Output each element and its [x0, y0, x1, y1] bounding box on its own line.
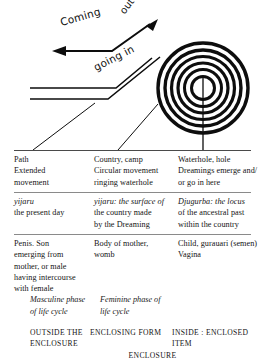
text-line: within the country: [178, 219, 261, 230]
cell-outside-bodily: Penis. Son emerging from mother, or male…: [0, 238, 94, 317]
text-line-italic: yijaru: [14, 196, 90, 207]
caption-inside: INSIDE : ENCLOSED ITEM: [172, 327, 262, 349]
arrow-head-upright-icon: [146, 19, 158, 31]
text-line: of the ancestral past: [178, 207, 261, 218]
text-line: ENCLOSURE: [30, 338, 86, 349]
table-row-meaning: Path Extended movement Country, camp Cir…: [0, 151, 265, 192]
text-line-phase: life cycle: [94, 306, 174, 317]
comparative-table: Path Extended movement Country, camp Cir…: [0, 150, 265, 361]
text-line: ENCLOSING FORM: [90, 327, 168, 338]
cell-inside-term: Djugurba: the locus of the ancestral pas…: [178, 196, 265, 230]
arrow-head-left-icon: [52, 46, 66, 56]
page-text-cutoff: [0, 317, 265, 320]
text-line: Vagina: [178, 249, 261, 260]
path-arrow-icon-out: [60, 24, 150, 51]
diagram-figure: Coming out going in: [0, 0, 265, 152]
text-line-italic: yijaru: the surface of: [94, 196, 174, 207]
cell-inside-meaning: Waterhole, hole Dreamings emerge and/ or…: [178, 154, 265, 188]
leader-line-enclosing: [118, 104, 158, 150]
text-line-italic: Djugurba: the locus: [178, 196, 261, 207]
cell-outside-meaning: Path Extended movement: [0, 154, 94, 188]
text-line: Circular movement: [94, 165, 174, 176]
text-line-phase: Feminine phase of: [94, 294, 174, 305]
leader-line-outside: [33, 103, 95, 150]
text-line: the present day: [14, 207, 90, 218]
cell-enclosing-term: yijaru: the surface of the country made …: [94, 196, 178, 230]
text-line: ITEM: [172, 338, 258, 349]
text-line: OUTSIDE THE: [30, 327, 86, 338]
text-line: Dreamings emerge and/: [178, 165, 261, 176]
text-line: Extended: [14, 165, 90, 176]
text-line: womb: [94, 249, 174, 260]
text-line: Country, camp: [94, 154, 174, 165]
spacer-line: [94, 272, 174, 283]
text-line: movement: [14, 177, 90, 188]
text-line-phase: of life cycle: [14, 306, 90, 317]
text-line: by the Dreaming: [94, 219, 174, 230]
table-caption-row: OUTSIDE THE ENCLOSURE ENCLOSING FORM INS…: [0, 321, 265, 349]
text-line: with female: [14, 283, 90, 294]
caption-enclosure-word: ENCLOSURE: [0, 349, 265, 361]
spacer-line: [94, 261, 174, 272]
text-line: ringing waterhole: [94, 177, 174, 188]
cell-inside-bodily: Child, gurauari (semen) Vagina: [178, 238, 265, 317]
text-line: or go in here: [178, 177, 261, 188]
text-line: Child, gurauari (semen): [178, 238, 261, 249]
text-line: mother, or male: [14, 261, 90, 272]
text-line: emerging from: [14, 249, 90, 260]
text-line: Waterhole, hole: [178, 154, 261, 165]
cell-enclosing-bodily: Body of mother, womb Feminine phase of l…: [94, 238, 178, 317]
caption-enclosing: ENCLOSING FORM: [90, 327, 172, 349]
table-row-bodily: Penis. Son emerging from mother, or male…: [0, 235, 265, 321]
text-line: having intercourse: [14, 272, 90, 283]
caption-outside: OUTSIDE THE ENCLOSURE: [0, 327, 90, 349]
text-line: the country made: [94, 207, 174, 218]
text-line: Penis. Son: [14, 238, 90, 249]
text-line: Path: [14, 154, 90, 165]
diagram-svg: [0, 0, 265, 152]
text-line: INSIDE : ENCLOSED: [172, 327, 258, 338]
cell-outside-term: yijaru the present day: [0, 196, 94, 230]
cell-enclosing-meaning: Country, camp Circular movement ringing …: [94, 154, 178, 188]
spacer-line: [94, 283, 174, 294]
text-line-phase: Masculine phase: [14, 294, 90, 305]
text-line: Body of mother,: [94, 238, 174, 249]
table-row-term: yijaru the present day yijaru: the surfa…: [0, 193, 265, 234]
